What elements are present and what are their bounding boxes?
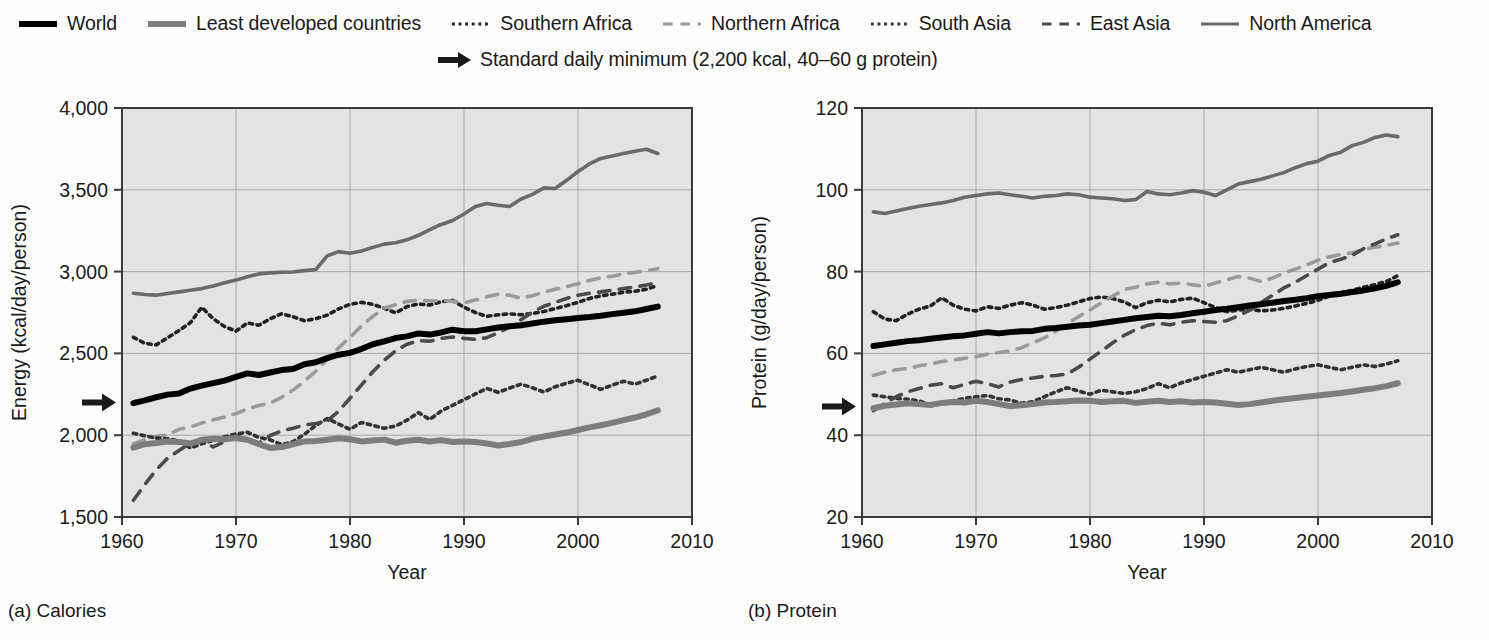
x-tick-label: 1990 bbox=[1182, 530, 1226, 552]
right-arrow-icon bbox=[82, 393, 116, 411]
legend-north-america-label: North America bbox=[1249, 14, 1371, 34]
legend-northern-africa: Northern Africa bbox=[662, 14, 840, 34]
legend-world: World bbox=[18, 14, 117, 34]
y-tick-label: 2,000 bbox=[59, 424, 108, 446]
legend-row-reference: Standard daily minimum (2,200 kcal, 40–6… bbox=[438, 50, 938, 70]
legend-east-asia-label: East Asia bbox=[1090, 14, 1170, 34]
legend-row-series: WorldLeast developed countriesSouthern A… bbox=[18, 14, 1372, 34]
legend-southern-africa-label: Southern Africa bbox=[500, 14, 632, 34]
y-tick-label: 3,000 bbox=[59, 261, 108, 283]
x-axis-title: Year bbox=[1127, 561, 1167, 583]
x-tick-label: 1970 bbox=[214, 530, 258, 552]
right-arrow-icon bbox=[438, 51, 472, 69]
y-tick-label: 80 bbox=[826, 261, 848, 283]
legend-north-america-swatch-icon bbox=[1200, 16, 1240, 32]
x-tick-label: 1970 bbox=[954, 530, 998, 552]
y-tick-label: 3,500 bbox=[59, 179, 108, 201]
x-tick-label: 1960 bbox=[100, 530, 144, 552]
legend-south-asia-swatch-icon bbox=[870, 16, 910, 32]
right-arrow-icon bbox=[822, 398, 856, 416]
y-axis-title: Protein (g/day/person) bbox=[748, 216, 770, 409]
x-tick-label: 2010 bbox=[670, 530, 714, 552]
legend-world-label: World bbox=[67, 14, 117, 34]
legend-northern-africa-label: Northern Africa bbox=[711, 14, 840, 34]
plot-background bbox=[862, 108, 1432, 517]
chart-panel-protein: 20406080100120196019701980199020002010Ye… bbox=[740, 92, 1489, 640]
chart-panel-calories: 1,5002,0002,5003,0003,5004,0001960197019… bbox=[0, 92, 745, 640]
x-tick-label: 2000 bbox=[1296, 530, 1340, 552]
chart-legend: WorldLeast developed countriesSouthern A… bbox=[0, 0, 1489, 92]
chart-svg-protein: 20406080100120196019701980199020002010Ye… bbox=[740, 92, 1489, 640]
y-tick-label: 120 bbox=[815, 97, 848, 119]
y-tick-label: 2,500 bbox=[59, 342, 108, 364]
legend-least-developed-countries-swatch-icon bbox=[147, 16, 187, 32]
legend-southern-africa-swatch-icon bbox=[451, 16, 491, 32]
y-axis-title: Energy (kcal/day/person) bbox=[8, 204, 30, 421]
y-tick-label: 20 bbox=[826, 506, 848, 528]
caption-calories: (a) Calories bbox=[8, 600, 106, 622]
y-tick-label: 100 bbox=[815, 179, 848, 201]
legend-least-developed-countries-label: Least developed countries bbox=[196, 14, 421, 34]
x-axis-title: Year bbox=[387, 561, 427, 583]
legend-northern-africa-swatch-icon bbox=[662, 16, 702, 32]
x-tick-label: 1980 bbox=[328, 530, 372, 552]
y-tick-label: 4,000 bbox=[59, 97, 108, 119]
legend-north-america: North America bbox=[1200, 14, 1371, 34]
legend-least-developed-countries: Least developed countries bbox=[147, 14, 421, 34]
x-tick-label: 1980 bbox=[1068, 530, 1112, 552]
x-tick-label: 1960 bbox=[840, 530, 884, 552]
legend-east-asia: East Asia bbox=[1041, 14, 1170, 34]
legend-south-asia-label: South Asia bbox=[919, 14, 1011, 34]
legend-reference-label: Standard daily minimum (2,200 kcal, 40–6… bbox=[480, 50, 938, 70]
legend-south-asia: South Asia bbox=[870, 14, 1011, 34]
chart-svg-calories: 1,5002,0002,5003,0003,5004,0001960197019… bbox=[0, 92, 745, 640]
legend-world-swatch-icon bbox=[18, 16, 58, 32]
y-tick-label: 60 bbox=[826, 342, 848, 364]
x-tick-label: 2010 bbox=[1410, 530, 1454, 552]
x-tick-label: 1990 bbox=[442, 530, 486, 552]
caption-protein: (b) Protein bbox=[748, 600, 837, 622]
x-tick-label: 2000 bbox=[556, 530, 600, 552]
legend-southern-africa: Southern Africa bbox=[451, 14, 632, 34]
legend-east-asia-swatch-icon bbox=[1041, 16, 1081, 32]
y-tick-label: 1,500 bbox=[59, 506, 108, 528]
y-tick-label: 40 bbox=[826, 424, 848, 446]
